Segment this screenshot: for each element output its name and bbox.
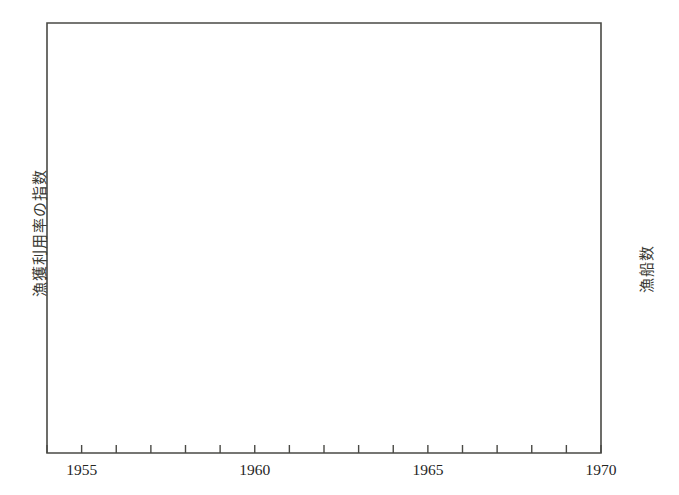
line-chart: 1955196019651970 bbox=[0, 0, 679, 495]
x-tick-label: 1965 bbox=[412, 461, 443, 478]
right-axis-title: 漁船数 bbox=[635, 209, 656, 329]
x-axis-ticks bbox=[47, 445, 601, 453]
plot-frame bbox=[47, 23, 601, 453]
chart-container: 1955196019651970 漁獲利用率の指数 漁船数 bbox=[0, 0, 679, 495]
x-tick-label: 1960 bbox=[239, 461, 270, 478]
left-axis-title: 漁獲利用率の指数 bbox=[28, 133, 49, 333]
x-axis-tick-labels: 1955196019651970 bbox=[66, 461, 617, 478]
x-tick-label: 1955 bbox=[66, 461, 97, 478]
plot-border bbox=[47, 23, 601, 453]
x-tick-label: 1970 bbox=[586, 461, 617, 478]
